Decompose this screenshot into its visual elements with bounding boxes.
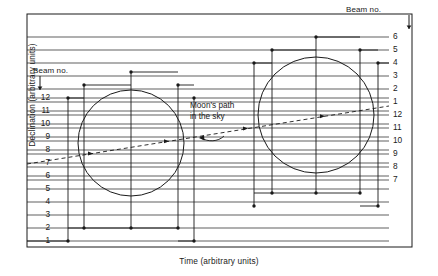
left-beam-tick-label: 4: [36, 196, 50, 206]
moon-path-direction-marker: [243, 127, 248, 131]
right-beam-tick-label: 8: [393, 161, 409, 171]
left-beam-tick-label: 1: [36, 235, 50, 245]
beam-arrow-right-head: [407, 26, 412, 29]
plot-frame: [27, 14, 412, 247]
right-beam-tick-label: 7: [393, 174, 409, 184]
moon-disc-outlines: [78, 57, 374, 196]
figure-container: Declination (arbitrary units) Time (arbi…: [0, 0, 438, 276]
beam-direction-arrows: [38, 15, 412, 90]
left-beam-tick-label: 3: [36, 209, 50, 219]
moon-path-annotation: Moon's path in the sky: [190, 100, 234, 122]
right-beam-tick-label: 2: [393, 83, 409, 93]
left-beam-tick-label: 9: [36, 131, 50, 141]
left-beam-tick-label: 8: [36, 144, 50, 154]
diagram-canvas: [0, 0, 438, 276]
right-beam-tick-label: 10: [393, 135, 409, 145]
left-beam-tick-label: 7: [36, 157, 50, 167]
annotation-pointer-arrow: [199, 135, 224, 141]
right-beam-tick-label: 6: [393, 31, 409, 41]
moon-path-direction-marker: [164, 139, 169, 143]
beam-step-traces: [27, 35, 389, 242]
left-beam-tick-label: 2: [36, 222, 50, 232]
moon-path-annotation-line2: in the sky: [190, 112, 225, 121]
left-beam-tick-label: 5: [36, 183, 50, 193]
moon-path-annotation-line1: Moon's path: [190, 101, 234, 110]
moon-path-direction-marker: [88, 151, 93, 155]
beam-step-node: [252, 204, 255, 207]
x-axis-label: Time (arbitrary units): [0, 256, 438, 266]
left-beam-tick-label: 11: [36, 105, 50, 115]
right-beam-tick-label: 5: [393, 44, 409, 54]
beam-caption-left: Beam no.: [33, 66, 68, 75]
right-beam-tick-label: 1: [393, 96, 409, 106]
right-beam-tick-label: 12: [393, 109, 409, 119]
right-beam-tick-label: 11: [393, 122, 409, 132]
beam-arrow-left-head: [38, 87, 43, 90]
plot-frame-rect: [27, 14, 412, 247]
beam-gridlines: [27, 37, 389, 241]
left-beam-tick-label: 6: [36, 170, 50, 180]
right-beam-tick-label: 9: [393, 148, 409, 158]
right-beam-tick-label: 4: [393, 57, 409, 67]
right-beam-tick-label: 3: [393, 70, 409, 80]
left-beam-tick-label: 10: [36, 118, 50, 128]
left-beam-tick-label: 12: [36, 92, 50, 102]
beam-caption-right: Beam no.: [346, 5, 381, 14]
